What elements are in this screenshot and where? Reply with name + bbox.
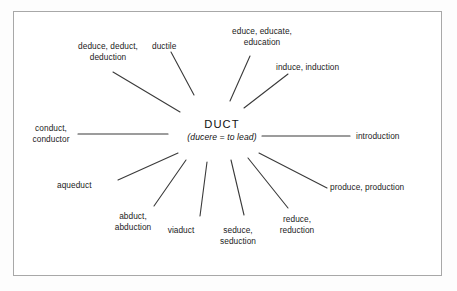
word-node-induce: induce, induction (276, 62, 339, 73)
word-node-produce: produce, production (330, 182, 404, 193)
spoke-ductile (171, 52, 194, 95)
spoke-deduce (113, 72, 180, 112)
word-node-abduct: abduct, abduction (115, 211, 151, 232)
word-node-seduce: seduce, seduction (220, 225, 256, 246)
word-node-deduce: deduce, deduct, deduction (78, 41, 138, 62)
word-node-ductile: ductile (152, 41, 176, 52)
word-node-educe: educe, educate, education (232, 26, 292, 47)
center-node: DUCT (ducere = to lead) (187, 118, 256, 143)
spoke-aqueduct (118, 153, 178, 180)
word-node-aqueduct: aqueduct (57, 180, 92, 191)
word-node-viaduct: viaduct (168, 225, 195, 236)
spoke-induce (244, 74, 288, 108)
word-node-reduce: reduce, reduction (280, 214, 315, 235)
word-node-conduct: conduct, conductor (33, 123, 70, 144)
spoke-lines-group (0, 0, 457, 291)
spoke-seduce (231, 160, 244, 215)
spoke-abduct (154, 160, 186, 206)
spoke-educe (230, 56, 250, 101)
center-gloss: (ducere = to lead) (187, 131, 256, 143)
spoke-produce (259, 153, 327, 188)
center-root-word: DUCT (187, 118, 256, 131)
spoke-reduce (248, 158, 288, 208)
word-node-introduction: introduction (356, 131, 400, 142)
diagram-canvas: DUCT (ducere = to lead) deduce, deduct, … (0, 0, 457, 291)
spoke-viaduct (200, 162, 207, 216)
